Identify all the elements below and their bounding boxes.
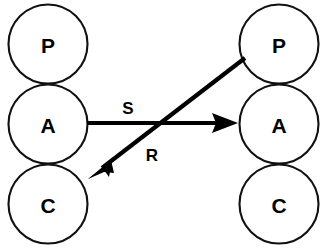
node-right-p-label: P bbox=[272, 34, 286, 57]
node-right-c[interactable]: C bbox=[240, 165, 319, 244]
diagram-canvas: P A C P A C bbox=[0, 0, 328, 251]
node-right-a-label: A bbox=[271, 114, 286, 137]
edge-r-label: R bbox=[146, 146, 158, 165]
edge-s-arrow[interactable] bbox=[87, 113, 238, 133]
node-left-a-label: A bbox=[40, 114, 55, 137]
edge-s-label: S bbox=[122, 99, 133, 118]
diagram-svg: P A C P A C bbox=[0, 0, 328, 251]
node-right-p[interactable]: P bbox=[240, 5, 319, 84]
edge-r-arrowhead-fill bbox=[88, 160, 114, 179]
node-left-c[interactable]: C bbox=[9, 165, 88, 244]
node-left-a[interactable]: A bbox=[9, 85, 88, 164]
node-left-p-label: P bbox=[41, 34, 55, 57]
node-right-a[interactable]: A bbox=[240, 85, 319, 164]
right-column: P A C bbox=[240, 5, 319, 244]
left-column: P A C bbox=[9, 5, 88, 244]
node-left-c-label: C bbox=[40, 194, 55, 217]
node-right-c-label: C bbox=[271, 194, 286, 217]
node-left-p[interactable]: P bbox=[9, 5, 88, 84]
